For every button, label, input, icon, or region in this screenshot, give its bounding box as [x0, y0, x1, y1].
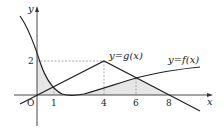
x-tick-6: 6 — [133, 98, 139, 108]
y-axis-arrow-icon — [35, 6, 39, 12]
x-tick-4: 4 — [101, 98, 107, 108]
label-f: y=f(x) — [167, 54, 199, 65]
origin-label: O — [27, 98, 34, 108]
y-tick-2: 2 — [28, 56, 34, 66]
graph-figure: y x O 2 1 4 6 8 y=g(x) y=f(x) — [0, 0, 224, 130]
shaded-region — [37, 57, 169, 95]
x-tick-1: 1 — [51, 98, 57, 108]
x-axis-label: x — [207, 96, 213, 107]
y-axis-label: y — [27, 3, 34, 14]
graph-svg: y x O 2 1 4 6 8 y=g(x) y=f(x) — [0, 0, 224, 130]
label-g: y=g(x) — [108, 50, 143, 61]
x-tick-8: 8 — [166, 98, 172, 108]
